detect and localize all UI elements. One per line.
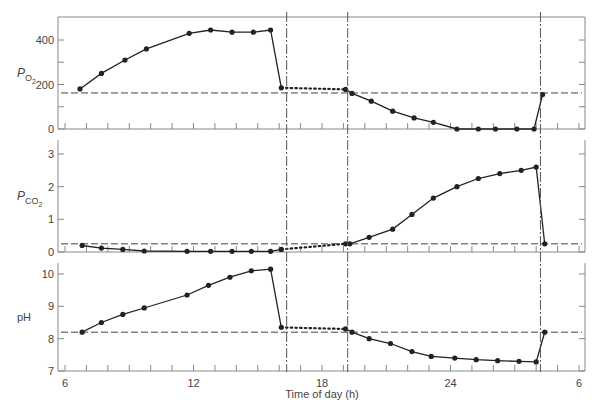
data-point xyxy=(542,330,547,335)
data-point xyxy=(476,126,481,131)
series-line-day xyxy=(82,269,281,332)
data-point xyxy=(227,275,232,280)
data-point xyxy=(390,109,395,114)
data-point xyxy=(390,227,395,232)
data-point xyxy=(495,358,500,363)
panel-pco2: 0123PCO2 xyxy=(17,140,585,258)
chart-svg: 0200400PO20123PCO278910pH 61218246 Time … xyxy=(0,0,604,414)
x-tick-label: 6 xyxy=(62,377,68,389)
data-point xyxy=(349,330,354,335)
series-line-night xyxy=(346,89,543,129)
data-point xyxy=(144,46,149,51)
y-tick-label: 10 xyxy=(42,268,54,280)
y-tick-label: 7 xyxy=(48,365,54,377)
data-point xyxy=(268,267,273,272)
y-tick-label: 0 xyxy=(48,123,54,135)
data-point xyxy=(429,354,434,359)
data-point xyxy=(184,249,189,254)
y-tick-label: 200 xyxy=(36,79,54,91)
x-tick-label: 24 xyxy=(444,377,456,389)
x-tick-label: 6 xyxy=(576,377,582,389)
data-point xyxy=(142,305,147,310)
y-tick-label: 1 xyxy=(48,213,54,225)
series-line-night xyxy=(346,167,545,244)
data-point xyxy=(80,330,85,335)
data-point xyxy=(77,86,82,91)
data-point xyxy=(249,268,254,273)
data-point xyxy=(409,212,414,217)
series-dotted-gap xyxy=(281,244,345,250)
data-point xyxy=(452,355,457,360)
data-point xyxy=(431,196,436,201)
data-point xyxy=(142,248,147,253)
data-point xyxy=(80,243,85,248)
data-point xyxy=(99,320,104,325)
data-point xyxy=(349,91,354,96)
series-dotted-gap xyxy=(281,327,345,329)
x-axis-label: Time of day (h) xyxy=(285,388,359,400)
event-lines xyxy=(287,12,541,372)
data-point xyxy=(454,184,459,189)
data-point xyxy=(474,357,479,362)
data-point xyxy=(208,27,213,32)
y-tick-label: 0 xyxy=(48,246,54,258)
y-axis-label: pH xyxy=(17,311,31,323)
data-point xyxy=(187,31,192,36)
series-line-night xyxy=(346,329,545,362)
data-point xyxy=(411,115,416,120)
data-point xyxy=(251,30,256,35)
y-tick-label: 3 xyxy=(48,148,54,160)
data-point xyxy=(369,99,374,104)
data-point xyxy=(99,245,104,250)
data-point xyxy=(409,349,414,354)
y-tick-label: 400 xyxy=(36,34,54,46)
data-point xyxy=(268,27,273,32)
data-point xyxy=(519,168,524,173)
data-point xyxy=(531,126,536,131)
data-point xyxy=(367,235,372,240)
data-point xyxy=(268,249,273,254)
x-tick-label: 12 xyxy=(187,377,199,389)
y-axis-label: PO2 xyxy=(17,66,36,85)
panel-po2: 0200400PO2 xyxy=(17,17,585,135)
data-point xyxy=(388,341,393,346)
y-tick-label: 9 xyxy=(48,300,54,312)
data-point xyxy=(534,359,539,364)
y-tick-label: 8 xyxy=(48,333,54,345)
data-point xyxy=(516,359,521,364)
data-point xyxy=(122,57,127,62)
data-point xyxy=(206,283,211,288)
series-line-day xyxy=(80,30,281,89)
chart-container: 0200400PO20123PCO278910pH 61218246 Time … xyxy=(0,0,604,414)
series-dotted-gap xyxy=(281,88,345,90)
data-point xyxy=(497,171,502,176)
y-axis-label: PCO2 xyxy=(17,189,43,208)
data-point xyxy=(249,249,254,254)
panel-ph: 78910pH xyxy=(17,263,585,377)
data-point xyxy=(367,336,372,341)
data-point xyxy=(120,247,125,252)
data-point xyxy=(208,249,213,254)
data-point xyxy=(542,241,547,246)
data-point xyxy=(476,176,481,181)
data-point xyxy=(229,30,234,35)
data-point xyxy=(534,164,539,169)
data-point xyxy=(120,312,125,317)
data-point xyxy=(184,292,189,297)
data-point xyxy=(229,249,234,254)
data-point xyxy=(431,120,436,125)
panels: 0200400PO20123PCO278910pH xyxy=(17,12,585,377)
data-point xyxy=(514,126,519,131)
data-point xyxy=(454,126,459,131)
data-point xyxy=(99,71,104,76)
data-point xyxy=(493,126,498,131)
y-tick-label: 2 xyxy=(48,181,54,193)
